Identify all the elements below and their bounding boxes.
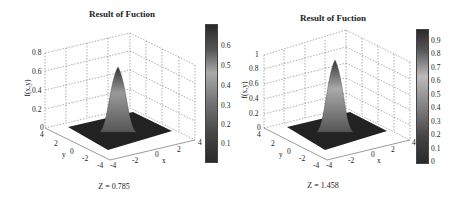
z-value-caption: Z = 1.458 — [283, 181, 363, 190]
x-axis-label: x — [377, 157, 381, 165]
z-value-caption: Z = 0.785 — [74, 182, 154, 191]
colorbar-right — [416, 29, 429, 164]
colorbar-left — [205, 24, 218, 163]
x-axis-label: x — [162, 157, 166, 165]
z-axis-label: f(x,y) — [241, 82, 249, 99]
y-axis-label: y — [279, 151, 283, 159]
z-axis-label: f(x,y) — [24, 80, 32, 97]
y-axis-label: y — [62, 151, 66, 159]
plot-panel-left: Result of Fuction 0.8 0.6 0.4 0.2 0 — [0, 0, 229, 201]
surface-plot — [0, 0, 229, 201]
